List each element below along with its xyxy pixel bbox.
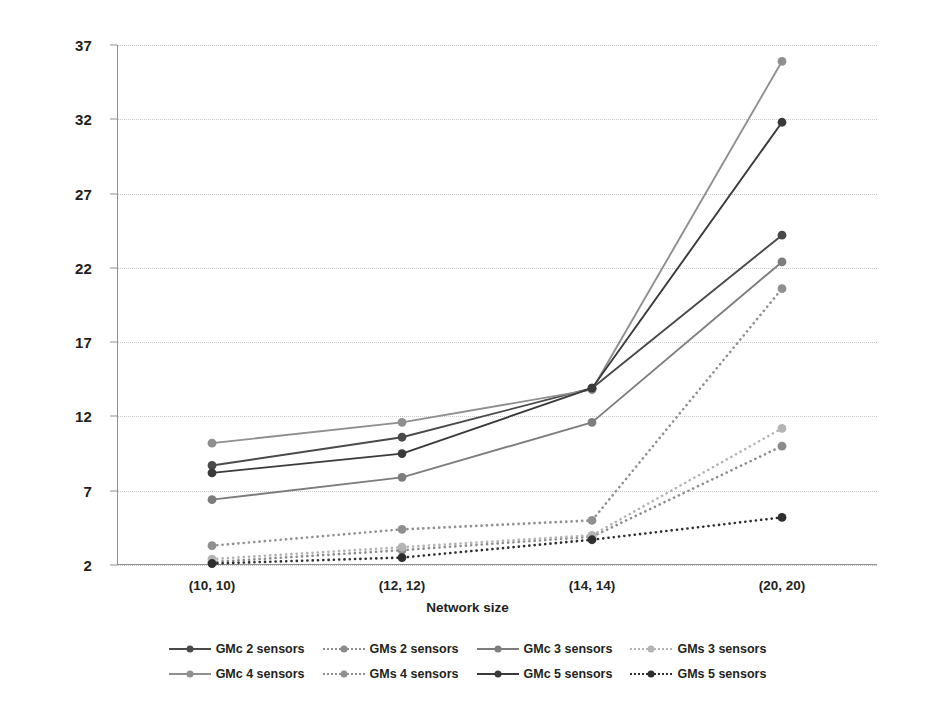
data-point bbox=[778, 118, 787, 127]
data-point bbox=[588, 384, 597, 393]
legend-swatch-icon bbox=[169, 668, 211, 680]
legend-swatch-icon bbox=[323, 668, 365, 680]
series-line bbox=[212, 122, 782, 473]
x-tick-label: (20, 20) bbox=[759, 578, 806, 593]
legend-label: GMs 3 sensors bbox=[677, 642, 766, 656]
series-line bbox=[212, 235, 782, 465]
data-point bbox=[588, 418, 597, 427]
data-point bbox=[398, 473, 407, 482]
data-point bbox=[778, 231, 787, 240]
x-tick-label: (10, 10) bbox=[189, 578, 236, 593]
data-point bbox=[588, 535, 597, 544]
series-gmc-5-sensors bbox=[208, 118, 787, 477]
legend-row: GMc 4 sensorsGMs 4 sensorsGMc 5 sensorsG… bbox=[0, 661, 935, 686]
x-tick-label: (14, 14) bbox=[569, 578, 616, 593]
legend-swatch-icon bbox=[477, 643, 519, 655]
legend-label: GMc 2 sensors bbox=[216, 642, 305, 656]
data-point bbox=[398, 449, 407, 458]
legend-item[interactable]: GMc 5 sensors bbox=[477, 667, 613, 681]
legend-swatch-icon bbox=[323, 643, 365, 655]
legend-label: GMc 3 sensors bbox=[524, 642, 613, 656]
data-point bbox=[778, 258, 787, 267]
legend-item[interactable]: GMc 3 sensors bbox=[477, 642, 613, 656]
legend-item[interactable]: GMs 3 sensors bbox=[630, 642, 766, 656]
x-axis-title: Network size bbox=[0, 600, 935, 615]
data-point bbox=[208, 468, 217, 477]
legend-item[interactable]: GMc 2 sensors bbox=[169, 642, 305, 656]
data-point bbox=[778, 513, 787, 522]
legend-item[interactable]: GMs 5 sensors bbox=[630, 667, 766, 681]
series-line bbox=[212, 428, 782, 559]
data-point bbox=[398, 418, 407, 427]
legend-item[interactable]: GMc 4 sensors bbox=[169, 667, 305, 681]
legend-swatch-icon bbox=[169, 643, 211, 655]
data-point bbox=[208, 439, 217, 448]
series-gms-4-sensors bbox=[208, 284, 787, 550]
x-tick-label: (12, 12) bbox=[379, 578, 426, 593]
chart-container: 27121722273237 (10, 10)(12, 12)(14, 14)(… bbox=[0, 0, 935, 727]
legend-label: GMs 2 sensors bbox=[370, 642, 459, 656]
data-point bbox=[208, 541, 217, 550]
data-point bbox=[208, 559, 217, 568]
legend-label: GMc 5 sensors bbox=[524, 667, 613, 681]
legend-label: GMs 4 sensors bbox=[370, 667, 459, 681]
legend-row: GMc 2 sensorsGMs 2 sensorsGMc 3 sensorsG… bbox=[0, 636, 935, 661]
data-point bbox=[778, 442, 787, 451]
data-point bbox=[778, 284, 787, 293]
series-line bbox=[212, 61, 782, 443]
legend-swatch-icon bbox=[630, 668, 672, 680]
legend-swatch-icon bbox=[630, 643, 672, 655]
legend-label: GMs 5 sensors bbox=[677, 667, 766, 681]
data-point bbox=[398, 525, 407, 534]
data-point bbox=[778, 57, 787, 66]
legend-swatch-icon bbox=[477, 668, 519, 680]
series-layer bbox=[0, 0, 935, 727]
data-point bbox=[208, 495, 217, 504]
data-point bbox=[778, 424, 787, 433]
series-gmc-3-sensors bbox=[208, 258, 787, 505]
legend-item[interactable]: GMs 2 sensors bbox=[323, 642, 459, 656]
data-point bbox=[588, 516, 597, 525]
legend-item[interactable]: GMs 4 sensors bbox=[323, 667, 459, 681]
data-point bbox=[398, 553, 407, 562]
series-line bbox=[212, 289, 782, 546]
legend-label: GMc 4 sensors bbox=[216, 667, 305, 681]
data-point bbox=[398, 543, 407, 552]
chart-legend: GMc 2 sensorsGMs 2 sensorsGMc 3 sensorsG… bbox=[0, 636, 935, 686]
data-point bbox=[398, 433, 407, 442]
